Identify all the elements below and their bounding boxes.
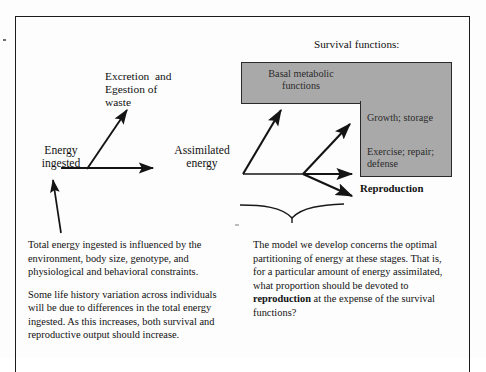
note-right: The model we develop concerns the optima… — [253, 238, 451, 319]
note-left-paragraph-1: Total energy ingested is influenced by t… — [28, 238, 233, 279]
note-right-paragraph: The model we develop concerns the optima… — [253, 238, 451, 319]
note-right-emphasis: reproduction — [253, 293, 311, 304]
scan-speck — [3, 39, 6, 41]
label-survival-functions-heading: Survival functions: — [314, 38, 399, 51]
label-basal-metabolic-functions: Basal metabolic functions — [246, 68, 356, 92]
note-left-paragraph-2: Some life history variation across indiv… — [28, 288, 233, 342]
label-exercise-repair-defense: Exercise; repair; defense — [367, 146, 457, 170]
label-reproduction: Reproduction — [360, 182, 423, 194]
label-assimilated-energy: Assimilated energy — [160, 144, 244, 170]
note-right-text-before: The model we develop concerns the optima… — [253, 239, 442, 291]
label-excretion-egestion: Excretion and Egestion of waste — [105, 70, 215, 108]
label-growth-storage: Growth; storage — [367, 112, 459, 124]
note-left: Total energy ingested is influenced by t… — [28, 238, 233, 342]
label-energy-ingested: Energy ingested — [22, 144, 100, 170]
